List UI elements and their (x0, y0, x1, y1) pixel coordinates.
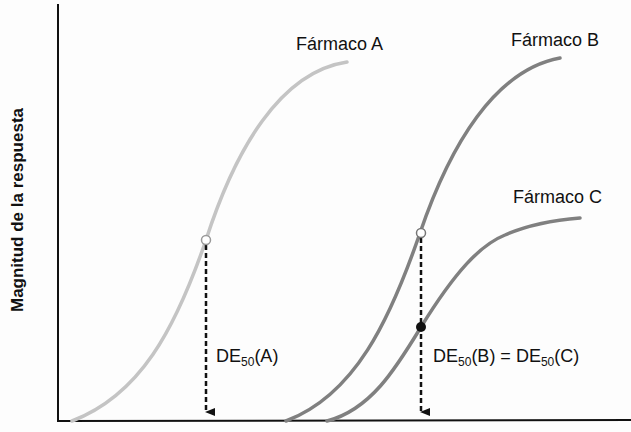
curve-drug-c (327, 218, 580, 421)
ed50-b-open-marker (417, 229, 426, 238)
label-drug-a: Fármaco A (296, 34, 383, 55)
label-ed50-a: DE50(A) (216, 346, 278, 369)
ed50-a-prefix: DE (216, 346, 241, 366)
ed50-b-suffix: (B) = (471, 346, 516, 366)
label-drug-c: Fármaco C (513, 187, 602, 208)
ed50-c-sub: 50 (541, 355, 554, 369)
x-axis (57, 420, 631, 421)
ed50-c-prefix: DE (516, 346, 541, 366)
label-ed50-bc: DE50(B) = DE50(C) (433, 346, 579, 369)
ed50-a-sub: 50 (241, 355, 254, 369)
chart: Magnitud de la respuesta Fármaco A Fárma… (0, 0, 631, 432)
ed50-c-suffix: (C) (554, 346, 579, 366)
ed50-b-prefix: DE (433, 346, 458, 366)
ed50-a-suffix: (A) (254, 346, 278, 366)
ed50-b-sub: 50 (458, 355, 471, 369)
y-axis-label: Magnitud de la respuesta (8, 85, 28, 335)
ed50-a-open-marker (202, 236, 211, 245)
label-drug-b: Fármaco B (511, 30, 599, 51)
ed50-c-filled-marker (416, 322, 426, 332)
